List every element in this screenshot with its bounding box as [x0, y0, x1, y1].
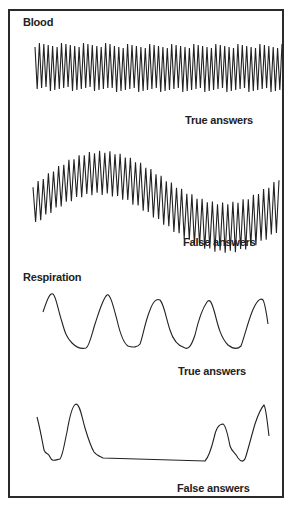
respiration-false-trace: [37, 404, 269, 461]
trace-canvas: [0, 0, 300, 510]
respiration-true-trace: [43, 294, 268, 349]
blood-false-trace: [33, 151, 279, 253]
blood-true-trace: [35, 43, 282, 92]
